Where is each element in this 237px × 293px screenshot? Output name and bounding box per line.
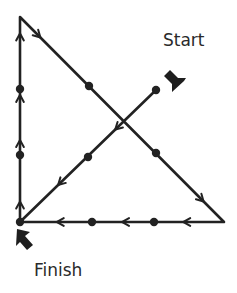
dot: [16, 151, 24, 159]
dot: [152, 149, 160, 157]
finish-label: Finish: [34, 260, 82, 280]
dot: [16, 85, 24, 93]
direction-arrowheads: [16, 30, 203, 226]
dot: [85, 82, 93, 90]
dot: [88, 218, 96, 226]
dot: [150, 218, 158, 226]
start-pointer-icon: [164, 70, 186, 92]
dot: [152, 86, 160, 94]
start-label: Start: [163, 30, 205, 50]
dot: [84, 153, 92, 161]
finish-pointer-icon: [16, 229, 33, 250]
dot: [16, 218, 24, 226]
